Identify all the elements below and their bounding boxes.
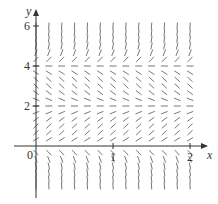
slope-segment xyxy=(48,36,49,43)
slope-segment xyxy=(99,156,102,163)
slope-segment xyxy=(97,117,103,121)
slope-segment xyxy=(85,117,91,121)
slope-segment xyxy=(85,84,90,89)
slope-segment xyxy=(136,57,141,62)
slope-segment xyxy=(97,91,103,95)
slope-segment xyxy=(59,117,65,121)
slope-segment xyxy=(187,124,192,129)
slope-segment xyxy=(151,176,152,183)
slope-segment xyxy=(190,29,191,36)
slope-segment xyxy=(49,29,50,36)
slope-segment xyxy=(113,36,114,43)
slope-segment xyxy=(136,150,141,155)
slope-segment xyxy=(72,77,77,82)
slope-segment xyxy=(112,43,113,50)
slope-segment xyxy=(99,163,100,170)
slope-segment xyxy=(187,111,193,114)
slope-segment xyxy=(138,169,139,176)
slope-segment xyxy=(59,91,65,95)
slope-segment xyxy=(190,176,191,183)
slope-segment xyxy=(73,156,76,163)
slope-segment xyxy=(46,137,52,141)
slope-segment xyxy=(175,150,180,155)
slope-segment xyxy=(87,176,88,183)
slope-segment xyxy=(98,150,103,155)
slope-segment xyxy=(177,36,178,43)
slope-segment xyxy=(162,117,168,121)
slope-segment xyxy=(174,117,180,121)
slope-segment xyxy=(136,84,141,89)
slope-segment xyxy=(112,49,115,56)
slope-segment xyxy=(46,77,51,82)
slope-segment xyxy=(110,137,116,141)
slope-segment xyxy=(72,150,77,155)
slope-segment xyxy=(149,91,155,95)
y-tick-label-4: 4 xyxy=(24,60,30,72)
slope-segment xyxy=(149,150,154,155)
slope-segment xyxy=(177,176,178,183)
slope-segment xyxy=(126,176,127,183)
slope-segment xyxy=(189,49,192,56)
slope-segment xyxy=(162,124,167,129)
slope-segment xyxy=(123,137,129,141)
slope-segment xyxy=(125,156,128,163)
slope-segment xyxy=(123,84,128,89)
slope-segment xyxy=(48,43,49,50)
slope-segment xyxy=(97,98,104,101)
slope-segment xyxy=(174,71,180,75)
slope-segment xyxy=(161,98,167,101)
slope-segment xyxy=(46,57,51,62)
slope-segment xyxy=(164,176,165,183)
slope-segment xyxy=(162,77,167,82)
slope-segment xyxy=(123,77,128,82)
slope-segment xyxy=(125,169,126,176)
slope-segment xyxy=(123,150,128,155)
slope-segment xyxy=(48,49,51,56)
slope-segment xyxy=(177,29,178,36)
slope-segment xyxy=(136,71,142,75)
slope-segment xyxy=(190,36,191,43)
slope-segment xyxy=(149,124,154,129)
slope-segment xyxy=(123,71,129,75)
slope-segments xyxy=(33,23,194,190)
slope-segment xyxy=(72,137,78,141)
slope-segment xyxy=(177,169,178,176)
slope-segment xyxy=(46,150,51,155)
slope-segment xyxy=(61,29,62,36)
slope-segment xyxy=(187,98,193,101)
slope-segment xyxy=(161,137,167,141)
slope-segment xyxy=(162,130,167,135)
slope-segment xyxy=(74,163,75,170)
slope-segment xyxy=(59,150,64,155)
slope-segment xyxy=(46,130,51,135)
slope-segment xyxy=(72,84,77,89)
slope-segment xyxy=(176,43,177,50)
y-tick-label-6: 6 xyxy=(24,20,30,32)
slope-segment xyxy=(99,43,100,50)
slope-segment xyxy=(85,91,91,95)
slope-segment xyxy=(74,36,75,43)
slope-segment xyxy=(97,71,103,75)
slope-segment xyxy=(175,84,180,89)
slope-segment xyxy=(161,111,167,114)
slope-segment xyxy=(46,91,52,95)
slope-segment xyxy=(176,163,177,170)
slope-segment xyxy=(163,49,166,56)
slope-segment xyxy=(136,124,141,129)
slope-segment xyxy=(136,91,142,95)
slope-segment xyxy=(136,77,141,82)
slope-segment xyxy=(149,117,155,121)
slope-segment xyxy=(137,49,140,56)
slope-segment xyxy=(187,117,193,121)
slope-segment xyxy=(97,137,103,141)
slope-segment xyxy=(125,36,126,43)
slope-segment xyxy=(123,98,129,101)
slope-segment xyxy=(187,84,192,89)
slope-segment xyxy=(125,43,126,50)
axes xyxy=(14,9,208,198)
slope-segment xyxy=(71,98,77,101)
slope-segment xyxy=(110,91,116,95)
slope-segment xyxy=(175,77,180,82)
slope-segment xyxy=(187,130,192,135)
slope-segment xyxy=(162,84,167,89)
